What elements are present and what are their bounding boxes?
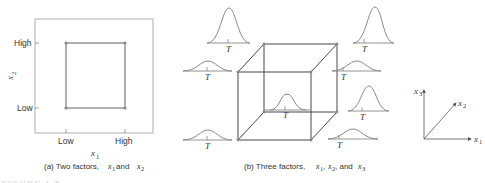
y-axis-label: x 2: [5, 72, 17, 81]
caption-a: (a) Two factors, x 1 and x 2: [44, 162, 144, 172]
svg-text:2: 2: [463, 102, 466, 109]
svg-text:T: T: [360, 112, 366, 122]
svg-text:(a) Two factors,: (a) Two factors,: [44, 162, 99, 171]
factorial-design-figure: High Low Low High x 2 x 1 (a) Two factor…: [0, 0, 485, 183]
svg-text:T: T: [205, 72, 211, 82]
plot-frame: [35, 19, 153, 133]
distribution-curve: T: [332, 61, 381, 82]
svg-text:T: T: [226, 44, 232, 54]
svg-text:x: x: [90, 148, 95, 158]
distribution-curve: T: [183, 61, 232, 82]
distribution-curve: T: [183, 130, 232, 151]
svg-text:3: 3: [419, 90, 422, 97]
svg-text:T: T: [362, 44, 368, 54]
distribution-curve: T: [328, 129, 378, 150]
svg-text:1: 1: [479, 138, 482, 145]
x-tick-high: High: [115, 136, 133, 146]
panel-b-three-factors: T T T T T: [183, 7, 394, 172]
svg-text:, and: , and: [335, 162, 353, 171]
y-tick-high: High: [14, 38, 32, 48]
svg-text:1: 1: [96, 153, 99, 160]
design-points: [64, 41, 126, 109]
svg-text:x: x: [5, 76, 15, 81]
distribution-curve: T: [264, 94, 310, 120]
svg-text:and: and: [116, 162, 129, 171]
svg-text:3: 3: [362, 165, 365, 172]
svg-text:,: ,: [323, 162, 325, 171]
svg-text:2: 2: [10, 72, 17, 75]
distribution-curve: T: [207, 8, 250, 54]
design-square: [66, 43, 125, 108]
figure-label: FIGURE 1-5: [2, 179, 61, 183]
svg-text:1: 1: [112, 165, 115, 172]
svg-text:2: 2: [141, 165, 144, 172]
svg-text:(b) Three factors,: (b) Three factors,: [244, 162, 305, 171]
x1-label: x: [473, 134, 478, 144]
distribution-curve: T: [353, 7, 394, 54]
x3-label: x: [413, 86, 418, 96]
svg-text:T: T: [205, 141, 211, 151]
distribution-curve: T: [348, 86, 389, 122]
cube: [238, 44, 337, 140]
x-tick-low: Low: [58, 136, 74, 146]
x-axis-label: x 1: [90, 148, 99, 160]
svg-text:T: T: [283, 110, 289, 120]
svg-text:T: T: [337, 140, 343, 150]
svg-text:T: T: [341, 72, 347, 82]
x2-label: x: [457, 98, 462, 108]
caption-b: (b) Three factors, x 1 , x 2 , and x 3: [244, 162, 365, 172]
y-tick-low: Low: [17, 103, 33, 113]
panel-a-two-factors: High Low Low High x 2 x 1 (a) Two factor…: [5, 19, 153, 172]
axes-3d-legend: x 3 x 2 x 1: [413, 86, 482, 145]
